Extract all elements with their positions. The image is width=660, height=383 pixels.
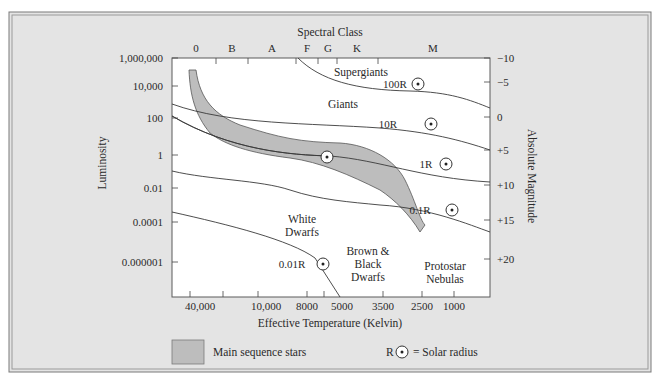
radius-label: 100R [383, 78, 408, 90]
region-label: ProtostarNebulas [424, 260, 466, 285]
hr-diagram-figure: 0BAFGKM 40,00010,00080005000350025001000… [0, 0, 660, 383]
sun-symbol-icon [412, 78, 424, 90]
temperature-label: 40,000 [185, 300, 216, 312]
legend-solar-radius-label: = Solar radius [413, 346, 478, 358]
temperature-label: 8000 [296, 300, 319, 312]
top-axis-title: Spectral Class [297, 26, 363, 39]
sun-symbol-icon [440, 158, 452, 170]
spectral-class-label: A [268, 42, 276, 54]
radius-label: 0.01R [279, 258, 306, 270]
temperature-label: 10,000 [251, 300, 282, 312]
luminosity-label: 0.01 [144, 182, 163, 194]
temperature-label: 5000 [331, 300, 354, 312]
region-label: Giants [328, 98, 359, 110]
sun-symbol-icon [425, 118, 437, 130]
radius-label: 1R [420, 158, 434, 170]
y-axis-title: Luminosity [96, 136, 109, 189]
magnitude-label: 0 [497, 111, 503, 123]
radius-label: 0.1R [409, 204, 431, 216]
region-label: Supergiants [334, 66, 389, 79]
y2-axis-title: Absolute Magnitude [525, 129, 538, 223]
magnitude-label: −5 [497, 76, 509, 88]
temperature-label: 3500 [372, 300, 395, 312]
temperature-label: 1000 [443, 300, 466, 312]
spectral-class-label: M [428, 42, 438, 54]
magnitude-label: +20 [497, 253, 515, 265]
temperature-label: 2500 [411, 300, 434, 312]
spectral-class-label: 0 [193, 42, 199, 54]
legend-main-sequence-label: Main sequence stars [213, 346, 307, 359]
magnitude-label: +10 [497, 179, 515, 191]
sun-symbol-icon [396, 346, 408, 358]
magnitude-label: −10 [497, 52, 515, 64]
legend-solar-radius-symbol: R [386, 346, 394, 358]
legend-swatch-main-sequence [172, 340, 204, 364]
luminosity-label: 0.000001 [122, 256, 163, 268]
sun-symbol-icon [317, 258, 329, 270]
spectral-class-label: B [228, 42, 235, 54]
luminosity-label: 1,000,000 [119, 52, 164, 64]
luminosity-label: 100 [147, 112, 164, 124]
luminosity-label: 1 [158, 149, 164, 161]
spectral-class-label: G [324, 42, 332, 54]
magnitude-label: +15 [497, 214, 515, 226]
luminosity-label: 10,000 [133, 80, 164, 92]
sun-symbol-icon [321, 151, 333, 163]
sun-symbol-icon [446, 204, 458, 216]
region-label: WhiteDwarfs [285, 213, 319, 238]
magnitude-label: +5 [497, 144, 509, 156]
luminosity-label: 0.0001 [133, 216, 163, 228]
spectral-class-label: F [304, 42, 310, 54]
hr-diagram-svg: 0BAFGKM 40,00010,00080005000350025001000… [0, 0, 660, 383]
spectral-class-label: K [353, 42, 361, 54]
radius-label: 10R [379, 118, 398, 130]
x-axis-title: Effective Temperature (Kelvin) [258, 317, 403, 330]
